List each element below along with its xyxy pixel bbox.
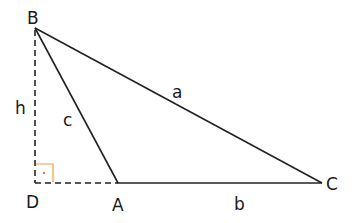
vertex-label-d: D [26, 192, 39, 212]
side-label-h: h [15, 98, 26, 118]
triangle-diagram: B D A C a c b h [0, 0, 355, 223]
side-label-c: c [63, 110, 72, 130]
side-label-b: b [234, 194, 245, 214]
vertex-label-b: B [27, 8, 39, 28]
right-angle-dot [43, 172, 45, 174]
side-label-a: a [172, 82, 182, 102]
side-a [35, 28, 322, 183]
vertex-label-c: C [326, 174, 338, 194]
vertex-label-a: A [112, 195, 124, 215]
